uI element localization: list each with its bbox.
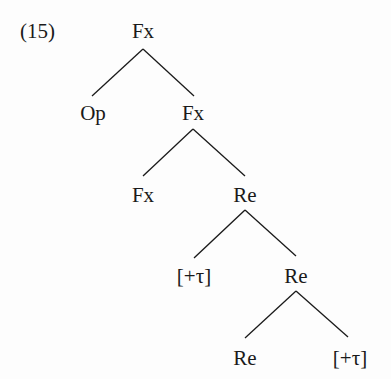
node-tau-feature-level4: [+τ] xyxy=(177,266,211,287)
tree-edge xyxy=(296,291,348,337)
node-tau-feature-level5: [+τ] xyxy=(333,348,367,369)
node-fx-level3: Fx xyxy=(132,185,154,206)
syntax-tree-diagram: (15) Fx Op Fx Fx Re [+τ] Re Re [+τ] xyxy=(0,0,391,379)
node-op: Op xyxy=(80,103,106,124)
tree-edge xyxy=(194,210,245,258)
tree-edge xyxy=(143,129,193,176)
tree-edge xyxy=(245,210,296,256)
node-re-level3: Re xyxy=(233,185,256,206)
node-fx-level2: Fx xyxy=(182,103,204,124)
tree-edge xyxy=(143,49,194,96)
tree-edge xyxy=(245,291,296,338)
example-number: (15) xyxy=(20,21,55,42)
tree-edges xyxy=(0,0,391,379)
tree-edge xyxy=(92,49,143,96)
node-re-level4: Re xyxy=(284,266,307,287)
node-re-level5: Re xyxy=(233,348,256,369)
node-root-fx: Fx xyxy=(132,21,154,42)
tree-edge xyxy=(193,129,245,176)
